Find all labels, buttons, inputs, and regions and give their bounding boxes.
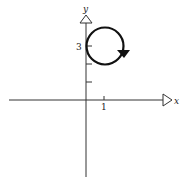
y-axis-arrow-icon [80, 15, 92, 23]
x-axis-label: x [174, 96, 179, 106]
x-axis-arrow-icon [163, 94, 172, 106]
y-tick-label-3: 3 [76, 42, 82, 52]
circle-curve [87, 28, 124, 65]
y-axis-label: y [82, 4, 89, 14]
chart-canvas: y x 1 3 [0, 0, 186, 186]
chart-svg: y x 1 3 [0, 0, 186, 186]
x-tick-label-1: 1 [101, 102, 107, 112]
